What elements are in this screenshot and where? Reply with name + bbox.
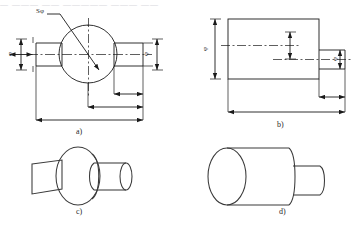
panel-a-sphere-leader [47,14,99,70]
panel-b-horizontal-dims [228,69,345,112]
d-big-cyl-back-edge [289,148,295,205]
caption-a: a) [76,127,82,136]
panel-a-left-diameter-label: φ [6,52,14,56]
c-right-cyl-root [90,163,95,190]
c-sphere-meridian [92,154,99,199]
panel-b-geometry [228,19,345,79]
panel-a-geometry [36,25,143,83]
panel-d-geometry [208,148,325,205]
caption-b: b) [277,120,284,129]
panel-a-right-diameter-label: φ [142,52,150,56]
d-big-cyl-front-face [208,148,246,205]
panel-b-right-diameter-label: φ [331,57,339,61]
panel-a-horizontal-dims [36,66,143,120]
panel-c-geometry [32,147,132,205]
d-small-cyl-end-face [320,166,325,195]
panel-b-left-diameter-label: φ [201,47,209,51]
panel-a-sphere-diameter-label: Sφ [36,7,44,15]
large-cylinder-outline [228,19,319,79]
c-right-cyl-end-face [120,163,132,190]
drawing-canvas [0,0,352,226]
caption-c: c) [76,207,82,216]
caption-d: d) [279,207,286,216]
panel-b-left-diameter-dim [210,19,221,79]
technical-drawing-page: — ——— —— ————— ——— —— [0,0,352,226]
leader-line-a [60,14,99,70]
